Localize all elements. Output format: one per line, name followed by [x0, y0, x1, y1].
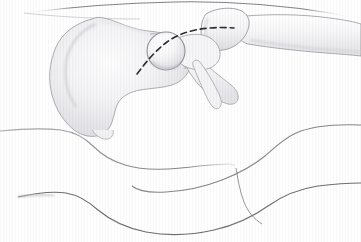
hip-joint-figure: Lateral view of hip joint with surgical …	[0, 0, 361, 242]
anatomical-illustration: Lateral view of hip joint with surgical …	[0, 0, 361, 242]
